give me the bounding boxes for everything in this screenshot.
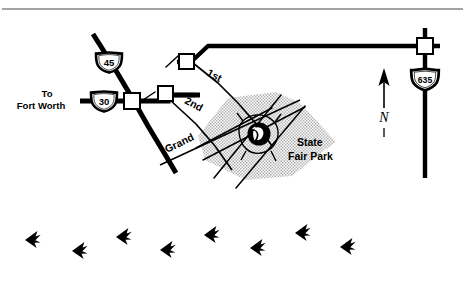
shield-interstate-635: 635 <box>411 69 439 90</box>
shield-45-number: 45 <box>104 57 115 68</box>
label-first-street: 1st <box>205 66 224 84</box>
shield-635-number: 635 <box>418 75 433 85</box>
shield-30-number: 30 <box>99 96 110 107</box>
bird-track-2 <box>71 242 89 261</box>
north-letter: N <box>378 110 389 125</box>
state-fair-park-line2: Fair Park <box>288 150 333 162</box>
label-second-street: 2nd <box>183 94 205 113</box>
to-fort-worth-line2: Fort Worth <box>17 100 66 111</box>
bird-track-8 <box>339 238 357 257</box>
map-figure: To Fort Worth 45 30 635 1st 2nd Grand <box>0 0 465 281</box>
interchange-i30-i45 <box>124 93 140 109</box>
bird-track-6 <box>249 239 267 258</box>
state-fair-park-line1: State <box>297 136 323 148</box>
bird-track-3 <box>115 228 133 247</box>
map-canvas: To Fort Worth 45 30 635 1st 2nd Grand <box>0 0 465 281</box>
bird-track-trail <box>24 224 357 261</box>
bird-track-1 <box>24 231 42 250</box>
bird-track-4 <box>159 241 177 260</box>
shield-interstate-45: 45 <box>96 53 122 73</box>
to-fort-worth-line1: To <box>42 88 53 99</box>
bird-track-5 <box>203 226 221 245</box>
bird-track-7 <box>294 224 312 243</box>
interchange-i635 <box>417 38 433 54</box>
north-arrow: N <box>378 68 389 137</box>
shield-interstate-30: 30 <box>91 92 117 112</box>
interchange-first-street <box>179 54 194 69</box>
to-fort-worth-label: To Fort Worth <box>17 88 66 111</box>
interchange-second-street <box>158 86 173 101</box>
